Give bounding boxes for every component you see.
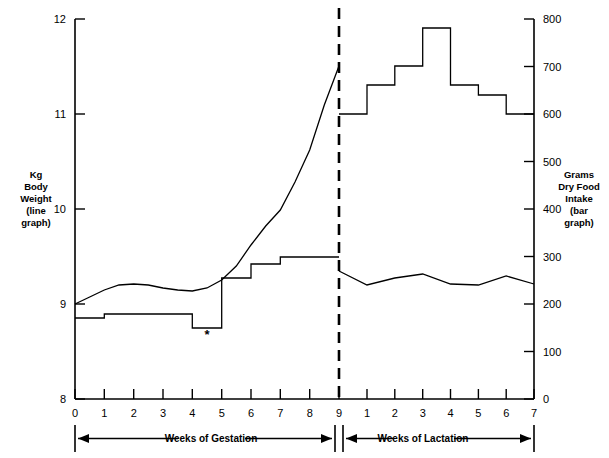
right-axis-title-line-4: (bar <box>570 205 588 216</box>
right-axis-title: Grams Dry Food Intake (bar graph) <box>558 169 600 228</box>
x-tick-label-l-1: 1 <box>364 407 370 419</box>
gestation-arrow-right-icon <box>321 434 332 443</box>
x-tick-label-g-7: 7 <box>277 407 283 419</box>
x-tick-label-g-3: 3 <box>160 407 166 419</box>
left-axis-title-line-5: graph) <box>21 217 51 228</box>
right-axis-title-line-2: Dry Food <box>558 181 600 192</box>
lactation-brace-label: Weeks of Lactation <box>378 433 469 444</box>
lactation-arrow-left-icon <box>346 434 357 443</box>
right-tick-label-400: 400 <box>543 203 561 215</box>
bar-step-gestation <box>75 257 339 328</box>
gestation-brace-label: Weeks of Gestation <box>165 433 258 444</box>
right-axis-title-line-5: graph) <box>564 217 594 228</box>
x-tick-label-l-3: 3 <box>420 407 426 419</box>
x-tick-label-g-9: 9 <box>336 407 342 419</box>
line-body-weight-gestation <box>75 66 339 304</box>
x-tick-label-g-8: 8 <box>307 407 313 419</box>
figure-container: 12 11 10 9 8 Kg Body Weight (line graph)… <box>0 0 609 458</box>
x-tick-label-g-6: 6 <box>248 407 254 419</box>
left-axis-title-line-2: Body <box>24 181 48 192</box>
left-axis-ticks: 12 11 10 9 8 <box>54 13 85 405</box>
gestation-brace: Weeks of Gestation <box>75 425 335 452</box>
left-tick-label-9: 9 <box>60 298 66 310</box>
x-tick-label-g-4: 4 <box>189 407 195 419</box>
right-tick-label-300: 300 <box>543 251 561 263</box>
right-axis-ticks: 800 700 600 500 400 300 200 100 0 <box>524 13 561 405</box>
right-tick-label-0: 0 <box>543 393 549 405</box>
left-axis-title-line-1: Kg <box>30 169 43 180</box>
x-axis-ticks-gestation: 0 1 2 3 4 5 6 7 8 9 <box>72 389 342 419</box>
left-tick-label-12: 12 <box>54 13 66 25</box>
x-tick-label-g-0: 0 <box>72 407 78 419</box>
x-tick-label-l-2: 2 <box>392 407 398 419</box>
x-tick-label-l-7: 7 <box>531 407 537 419</box>
left-axis-title-line-4: (line <box>26 205 46 216</box>
right-tick-label-700: 700 <box>543 61 561 73</box>
right-axis-title-line-3: Intake <box>565 193 592 204</box>
x-tick-label-g-2: 2 <box>131 407 137 419</box>
right-axis-title-line-1: Grams <box>564 169 594 180</box>
left-axis-title-line-3: Weight <box>20 193 52 204</box>
left-axis-title: Kg Body Weight (line graph) <box>20 169 52 228</box>
x-tick-label-l-6: 6 <box>503 407 509 419</box>
x-tick-label-g-1: 1 <box>101 407 107 419</box>
right-tick-label-800: 800 <box>543 13 561 25</box>
line-body-weight-lactation <box>339 271 534 285</box>
x-tick-label-g-5: 5 <box>219 407 225 419</box>
asterisk-annotation: * <box>204 327 210 342</box>
lactation-brace: Weeks of Lactation <box>343 425 534 452</box>
x-axis-ticks-lactation: 1 2 3 4 5 6 7 <box>364 389 537 419</box>
right-tick-label-600: 600 <box>543 108 561 120</box>
bar-step-lactation <box>339 28 534 114</box>
left-tick-label-8: 8 <box>60 393 66 405</box>
left-tick-label-11: 11 <box>55 108 66 120</box>
lactation-arrow-right-icon <box>520 434 531 443</box>
right-tick-label-200: 200 <box>543 298 561 310</box>
axis-lines <box>75 19 534 399</box>
x-tick-label-l-4: 4 <box>447 407 453 419</box>
left-tick-label-10: 10 <box>54 203 66 215</box>
right-tick-label-100: 100 <box>543 346 561 358</box>
gestation-arrow-left-icon <box>78 434 89 443</box>
x-tick-label-l-5: 5 <box>475 407 481 419</box>
right-tick-label-500: 500 <box>543 156 561 168</box>
chart-svg: 12 11 10 9 8 Kg Body Weight (line graph)… <box>0 0 609 458</box>
